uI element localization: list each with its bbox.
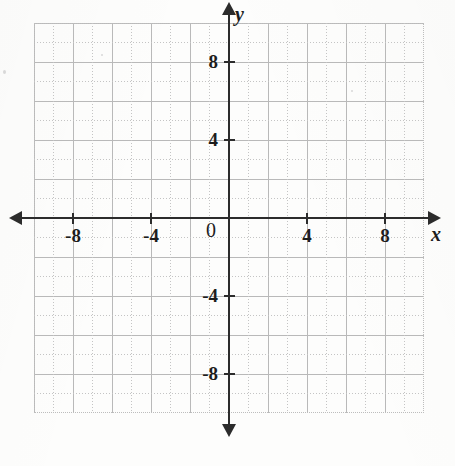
y-axis-label: y [235, 4, 244, 24]
y-axis-up-arrow-icon [222, 2, 236, 15]
x-tick-label-8: 8 [363, 226, 407, 245]
scan-speck [351, 90, 353, 92]
y-tick-label--8: -8 [174, 364, 218, 383]
y-axis-tick [224, 61, 235, 63]
x-axis-tick [306, 213, 308, 224]
y-tick-label-4: 4 [174, 130, 218, 149]
x-axis-tick [72, 213, 74, 224]
x-tick-label-4: 4 [285, 226, 329, 245]
coordinate-plane-figure: -8 -4 4 8 8 4 -4 -8 0 x y [0, 0, 455, 466]
y-tick-label-8: 8 [174, 52, 218, 71]
x-tick-label--8: -8 [51, 226, 95, 245]
origin-label: 0 [206, 220, 216, 240]
scan-speck [101, 54, 103, 56]
y-axis-tick [224, 139, 235, 141]
x-axis-label: x [431, 224, 441, 244]
y-axis-down-arrow-icon [222, 424, 236, 437]
y-axis-tick [224, 373, 235, 375]
x-axis-tick [384, 213, 386, 224]
y-axis-line [228, 9, 230, 432]
y-axis-tick [224, 295, 235, 297]
y-tick-label--4: -4 [174, 286, 218, 305]
x-axis-tick [150, 213, 152, 224]
scan-speck [3, 70, 6, 74]
x-axis-line [16, 217, 435, 219]
x-tick-label--4: -4 [129, 226, 173, 245]
x-axis-left-arrow-icon [9, 211, 22, 225]
